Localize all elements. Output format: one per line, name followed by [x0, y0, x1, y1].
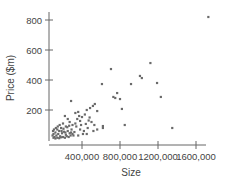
x-axis: 400,000800,0001200,0001600,000 Size	[49, 141, 216, 178]
data-point	[67, 118, 69, 120]
data-point	[62, 122, 64, 124]
x-axis-title: Size	[121, 167, 141, 178]
data-point	[59, 124, 61, 126]
y-axis-title: Price ($m)	[5, 55, 16, 101]
data-point	[70, 100, 72, 102]
data-point	[80, 124, 82, 126]
data-point	[86, 109, 88, 111]
data-point	[69, 121, 71, 123]
data-point	[52, 137, 54, 139]
data-point	[102, 127, 104, 129]
data-point	[141, 77, 143, 79]
data-point	[55, 134, 57, 136]
data-point	[156, 82, 158, 84]
data-point	[62, 136, 64, 138]
data-point	[89, 107, 91, 109]
data-point	[64, 131, 66, 133]
data-point	[93, 124, 95, 126]
x-ticks: 400,000800,0001200,0001600,000	[65, 141, 216, 162]
data-point	[56, 137, 58, 139]
data-point	[102, 125, 104, 127]
data-point	[58, 130, 60, 132]
data-point	[55, 127, 57, 129]
data-point	[66, 126, 68, 128]
data-point	[88, 119, 90, 121]
data-point	[85, 123, 87, 125]
data-point	[81, 116, 83, 118]
data-point	[149, 62, 151, 64]
data-point	[60, 136, 62, 138]
data-point	[62, 128, 64, 130]
data-point	[96, 128, 98, 130]
data-point	[60, 127, 62, 129]
scatter-chart: 200400600800 Price ($m) 400,000800,00012…	[0, 0, 225, 190]
data-point	[71, 133, 73, 135]
data-point	[171, 127, 173, 129]
data-point	[68, 136, 70, 138]
data-point	[58, 137, 60, 139]
data-point	[67, 130, 69, 132]
data-point	[71, 124, 73, 126]
data-point	[92, 130, 94, 132]
x-tick-label: 400,000	[65, 151, 99, 162]
y-tick-label: 200	[26, 105, 42, 116]
data-point	[61, 132, 63, 134]
data-point	[68, 125, 70, 127]
data-point	[54, 131, 56, 133]
data-point	[92, 105, 94, 107]
data-point	[139, 75, 141, 77]
data-points	[51, 16, 209, 140]
data-point	[64, 115, 66, 117]
data-point	[89, 116, 91, 118]
data-point	[110, 68, 112, 70]
data-point	[121, 108, 123, 110]
data-point	[73, 131, 75, 133]
y-tick-label: 400	[26, 75, 42, 86]
data-point	[54, 137, 56, 139]
data-point	[130, 83, 132, 85]
data-point	[74, 122, 76, 124]
data-point	[84, 113, 86, 115]
data-point	[75, 125, 77, 127]
data-point	[83, 130, 85, 132]
data-point	[70, 134, 72, 136]
x-tick-label: 1600,000	[176, 151, 216, 162]
data-point	[77, 134, 79, 136]
data-point	[76, 118, 78, 120]
data-point	[66, 135, 68, 137]
data-point	[116, 92, 118, 94]
data-point	[79, 128, 81, 130]
data-point	[53, 128, 55, 130]
x-tick-label: 1200,000	[138, 151, 178, 162]
data-point	[96, 110, 98, 112]
data-point	[78, 115, 80, 117]
data-point	[90, 121, 92, 123]
data-point	[114, 97, 116, 99]
y-tick-label: 600	[26, 45, 42, 56]
data-point	[79, 120, 81, 122]
data-point	[101, 83, 103, 85]
data-point	[119, 98, 121, 100]
data-point	[94, 103, 96, 105]
x-tick-label: 800,000	[103, 151, 137, 162]
data-point	[160, 96, 162, 98]
data-point	[112, 96, 114, 98]
data-point	[51, 134, 53, 136]
data-point	[64, 137, 66, 139]
data-point	[57, 133, 59, 135]
data-point	[124, 124, 126, 126]
data-point	[82, 133, 84, 135]
y-tick-label: 800	[26, 15, 42, 26]
data-point	[87, 127, 89, 129]
data-point	[57, 125, 59, 127]
data-point	[207, 16, 209, 18]
data-point	[70, 128, 72, 130]
data-point	[77, 111, 79, 113]
data-point	[74, 112, 76, 114]
data-point	[86, 133, 88, 135]
data-point	[60, 130, 62, 132]
y-axis: 200400600800 Price ($m)	[5, 12, 53, 141]
